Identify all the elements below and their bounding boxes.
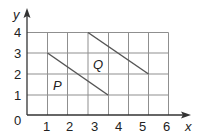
x-tick-5: 5 xyxy=(139,119,146,134)
x-tick-1: 1 xyxy=(43,119,50,134)
x-tick-4: 4 xyxy=(115,119,122,134)
y-tick-3: 3 xyxy=(14,46,21,61)
x-tick-3: 3 xyxy=(91,119,98,134)
x-tick-6: 6 xyxy=(163,119,170,134)
shape-label-p: P xyxy=(53,78,62,93)
origin-label: 0 xyxy=(14,113,21,128)
y-tick-1: 1 xyxy=(14,88,21,103)
coordinate-grid-figure: y x 0 4 3 2 1 1 2 3 4 5 6 P Q xyxy=(0,0,205,137)
x-tick-2: 2 xyxy=(66,119,73,134)
x-axis-label: x xyxy=(184,119,192,134)
axes xyxy=(27,13,186,115)
y-tick-2: 2 xyxy=(14,67,21,82)
shape-label-q: Q xyxy=(93,57,103,72)
y-tick-4: 4 xyxy=(14,25,21,40)
y-axis-label: y xyxy=(12,7,21,22)
